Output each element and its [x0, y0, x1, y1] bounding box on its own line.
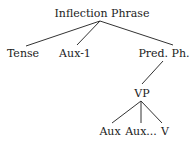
edge-vp-v [141, 101, 162, 123]
node-pred-ph: Pred. Ph. [138, 48, 189, 59]
edge-pred-vp [142, 61, 163, 84]
edge-root-tense [26, 21, 100, 46]
node-v: V [161, 126, 169, 137]
node-root: Inflection Phrase [54, 8, 149, 19]
node-aux: Aux [99, 126, 120, 137]
node-aux1: Aux-1 [59, 48, 91, 59]
edge-root-pred [100, 21, 173, 45]
node-tense: Tense [7, 48, 39, 59]
node-aux-dots: Aux... [125, 126, 157, 137]
tree-edges [0, 0, 191, 144]
node-vp: VP [134, 88, 149, 99]
edge-vp-aux [112, 101, 141, 123]
